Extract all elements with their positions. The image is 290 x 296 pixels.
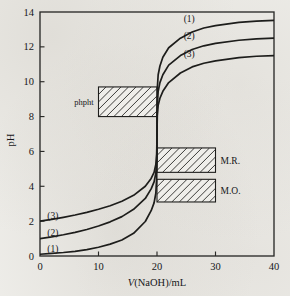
y-tick-label-2: 2 — [29, 216, 34, 227]
svg-text:V(NaOH)/mL: V(NaOH)/mL — [128, 277, 186, 289]
y-tick-label-0: 0 — [29, 251, 34, 262]
x-tick-label-10: 10 — [93, 261, 104, 272]
band-label-phpht: phpht — [74, 97, 94, 107]
curve-label-right-2: (2) — [184, 31, 195, 42]
curve-label-right-3: (3) — [184, 49, 195, 60]
x-axis-title: V(NaOH)/mL — [128, 277, 186, 289]
band-label-mr: M.R. — [221, 156, 241, 166]
curve-label-left-1: (1) — [47, 244, 58, 255]
titration-curve-chart: 02468101214 010203040 phphtM.R.M.O. (1)(… — [0, 0, 290, 296]
x-tick-label-20: 20 — [152, 261, 163, 272]
x-tick-label-0: 0 — [37, 261, 42, 272]
chart-page: 02468101214 010203040 phphtM.R.M.O. (1)(… — [0, 0, 290, 296]
y-tick-label-4: 4 — [29, 181, 35, 192]
x-tick-label-40: 40 — [269, 261, 280, 272]
curve-label-right-1: (1) — [184, 14, 195, 25]
y-tick-label-12: 12 — [24, 41, 35, 52]
band-label-mo: M.O. — [221, 186, 241, 196]
x-tick-label-30: 30 — [210, 261, 221, 272]
y-axis-title: pH — [5, 133, 16, 146]
indicator-band-mr — [133, 148, 262, 172]
y-axis-tick-labels: 02468101214 — [24, 7, 35, 262]
indicator-bands — [69, 87, 262, 202]
titration-curves — [40, 20, 274, 254]
y-tick-label-8: 8 — [29, 111, 34, 122]
curve-label-left-2: (2) — [47, 228, 58, 239]
y-tick-label-6: 6 — [29, 146, 34, 157]
y-tick-label-14: 14 — [24, 7, 35, 18]
x-axis-tick-labels: 010203040 — [37, 261, 279, 272]
curve-label-left-3: (3) — [47, 211, 58, 222]
curve-labels: (1)(1)(2)(2)(3)(3) — [47, 14, 194, 255]
y-tick-label-10: 10 — [24, 76, 35, 87]
